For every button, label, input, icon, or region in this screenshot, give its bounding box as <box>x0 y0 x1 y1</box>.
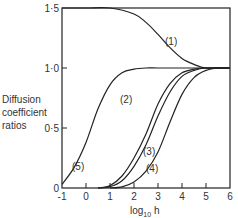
chart: -1012345600·51·01·5 (1)(2)(3)(4)(5) Diff… <box>0 0 238 218</box>
curve-label-2: (2) <box>120 94 132 105</box>
y-tick-label: 1·5 <box>45 3 60 14</box>
y-tick-label: 0·5 <box>45 123 60 134</box>
x-tick-label: 5 <box>203 191 209 202</box>
x-axis-label-suffix: h <box>151 205 159 216</box>
y-axis-label-line-2: coefficient <box>2 107 47 118</box>
y-axis-label-line-3: ratios <box>2 120 26 131</box>
curve-2 <box>98 68 230 188</box>
x-tick-label: 4 <box>179 191 185 202</box>
curve-4 <box>110 68 230 188</box>
curve-label-4: (4) <box>146 163 158 174</box>
curves <box>62 8 230 188</box>
curve-3 <box>98 68 230 188</box>
curve-label-5: (5) <box>72 161 84 172</box>
x-tick-label: 6 <box>227 191 233 202</box>
curve-label-3: (3) <box>143 146 155 157</box>
curve-1 <box>62 8 230 69</box>
plot-frame <box>62 8 230 188</box>
tick-labels: -1012345600·51·01·5 <box>45 3 234 202</box>
x-tick-label: 0 <box>83 191 89 202</box>
x-axis-label: log10 h <box>130 205 160 218</box>
y-tick-label: 1·0 <box>45 63 60 74</box>
x-axis-label-subscript: 10 <box>143 211 151 218</box>
x-tick-label: 3 <box>155 191 161 202</box>
x-tick-label: 1 <box>107 191 113 202</box>
y-tick-label: 0 <box>53 183 59 194</box>
curve-labels: (1)(2)(3)(4)(5) <box>72 36 177 174</box>
y-axis-label-line-1: Diffusion <box>2 94 41 105</box>
x-axis-label-prefix: log <box>130 205 143 216</box>
curve-label-1: (1) <box>165 36 177 47</box>
x-tick-label: 2 <box>131 191 137 202</box>
